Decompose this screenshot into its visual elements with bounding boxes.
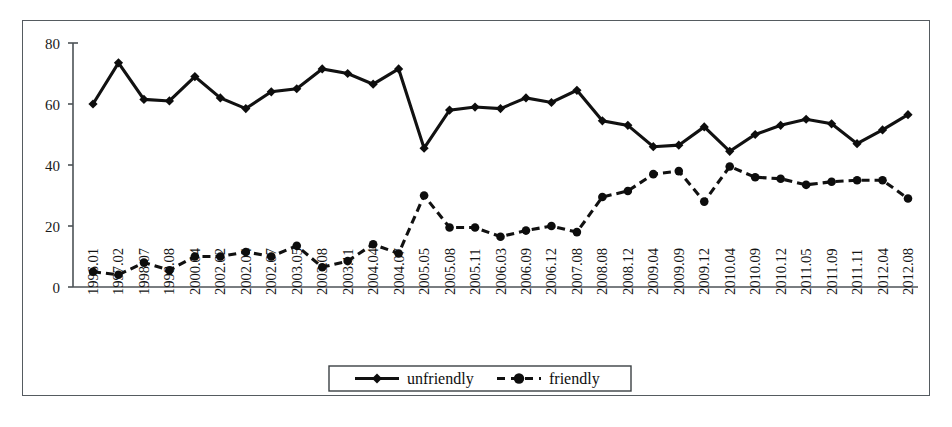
x-tick-label: 2006.12	[543, 248, 559, 295]
data-point-marker-friendly	[420, 191, 429, 200]
legend-label-friendly: friendly	[549, 370, 600, 388]
data-point-marker-friendly	[573, 228, 582, 237]
data-point-marker-friendly	[89, 267, 98, 276]
x-tick-label: 2008.12	[620, 248, 636, 295]
data-point-marker-friendly	[140, 258, 149, 267]
y-axis: 020406080	[45, 36, 78, 296]
data-point-marker-unfriendly	[343, 69, 352, 78]
data-point-marker-friendly	[343, 257, 352, 266]
data-point-marker-friendly	[242, 248, 251, 257]
data-point-marker-friendly	[700, 197, 709, 206]
x-tick-label: 2009.09	[671, 248, 687, 295]
data-point-marker-friendly	[751, 173, 760, 182]
x-tick-label: 2010.04	[722, 247, 738, 295]
data-point-marker-friendly	[776, 174, 785, 183]
data-point-marker-unfriendly	[521, 93, 530, 102]
x-tick-label: 2008.08	[594, 248, 610, 295]
x-tick-label: 2005.05	[416, 248, 432, 295]
data-point-marker-friendly	[292, 242, 301, 251]
data-point-marker-friendly	[725, 162, 734, 171]
x-tick-label: 1998.07	[136, 248, 152, 295]
x-tick-label: 2005.08	[442, 248, 458, 295]
x-tick-label: 2011.11	[849, 249, 865, 295]
data-point-marker-friendly	[853, 176, 862, 185]
x-tick-label: 2011.05	[798, 248, 814, 295]
data-point-marker-friendly	[674, 167, 683, 176]
x-tick-label: 2011.09	[824, 248, 840, 295]
y-tick-label: 20	[45, 219, 60, 235]
x-tick-label: 2010.12	[773, 248, 789, 295]
x-tick-label: 2003.11	[340, 248, 356, 295]
chart-legend: unfriendlyfriendly	[329, 366, 631, 391]
x-tick-label: 2012.04	[875, 247, 891, 295]
data-point-marker-friendly	[165, 266, 174, 275]
data-point-marker-friendly	[216, 252, 225, 261]
chart-container: 020406080 1996.011997.021998.071998.0820…	[0, 0, 952, 427]
x-tick-label: 2005.11	[467, 248, 483, 295]
y-tick-label: 40	[45, 158, 60, 174]
data-point-marker-friendly	[598, 193, 607, 202]
data-series-group	[88, 58, 912, 279]
legend-label-unfriendly: unfriendly	[407, 370, 474, 388]
x-tick-label: 2009.12	[696, 248, 712, 295]
x-tick-label: 2004.04	[365, 247, 381, 295]
x-tick-label: 2012.08	[900, 248, 916, 295]
data-point-marker-friendly	[471, 223, 480, 232]
data-point-marker-friendly	[522, 226, 531, 235]
x-tick-label: 2009.04	[645, 247, 661, 295]
data-point-marker-friendly	[547, 222, 556, 231]
data-point-marker-friendly	[114, 271, 123, 280]
data-point-marker-friendly	[318, 263, 327, 272]
x-tick-label: 2006.03	[493, 248, 509, 295]
data-point-marker-unfriendly	[802, 115, 811, 124]
data-point-marker-unfriendly	[496, 104, 505, 113]
data-point-marker-friendly	[496, 232, 505, 241]
y-tick-label: 0	[53, 280, 61, 296]
data-point-marker-friendly	[445, 223, 454, 232]
data-point-marker-unfriendly	[776, 121, 785, 130]
data-point-marker-friendly	[904, 194, 913, 203]
x-tick-label: 2010.09	[747, 248, 763, 295]
x-tick-label: 2007.08	[569, 248, 585, 295]
data-point-marker-friendly	[649, 170, 658, 179]
data-point-marker-friendly	[191, 252, 200, 261]
y-tick-label: 60	[45, 97, 60, 113]
x-tick-label: 2006.09	[518, 248, 534, 295]
data-point-marker-unfriendly	[470, 102, 479, 111]
data-point-marker-friendly	[878, 176, 887, 185]
data-point-marker-friendly	[369, 240, 378, 249]
chart-plot-svg: 020406080 1996.011997.021998.071998.0820…	[0, 0, 952, 427]
y-tick-label: 80	[45, 36, 60, 52]
legend-marker-friendly	[514, 373, 524, 383]
data-point-marker-friendly	[802, 181, 811, 190]
data-point-marker-friendly	[267, 252, 276, 261]
x-tick-label: 2003.05	[289, 248, 305, 295]
x-axis: 1996.011997.021998.071998.082000.042002.…	[73, 247, 918, 295]
data-point-marker-friendly	[394, 249, 403, 258]
data-point-marker-friendly	[624, 187, 633, 196]
data-point-marker-friendly	[827, 177, 836, 186]
